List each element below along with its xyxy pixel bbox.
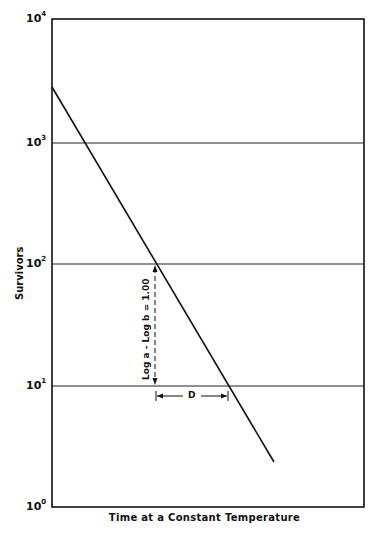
plot-frame [52, 19, 364, 507]
x-axis-label: Time at a Constant Temperature [0, 512, 379, 523]
y-tick-1e4: 104 [26, 11, 46, 25]
y-axis-label: Survivors [14, 247, 25, 300]
arrowhead-up [153, 265, 158, 272]
y-tick-1e3: 103 [26, 135, 46, 149]
d-arrowhead-left [157, 394, 163, 399]
y-tick-1e0: 100 [26, 499, 46, 513]
y-tick-1e2: 102 [26, 256, 46, 270]
arrowhead-down [153, 378, 158, 385]
d-value-annotation: D [188, 390, 195, 400]
y-tick-1e1: 101 [26, 378, 46, 392]
d-arrowhead-right [221, 394, 227, 399]
log-difference-annotation: Log a - Log b = 1.00 [141, 278, 151, 380]
chart-canvas [0, 0, 379, 535]
